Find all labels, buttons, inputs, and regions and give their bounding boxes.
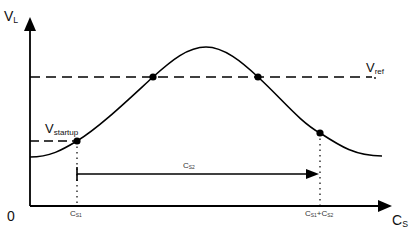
cs1cs2-b-sub: S2: [327, 213, 333, 218]
x-axis-label: CS: [392, 213, 408, 229]
vstartup-label-sub: startup: [54, 128, 79, 137]
origin-label: 0: [7, 209, 15, 223]
vstartup-label-main: V: [45, 121, 54, 136]
cs2-span-label: CS2: [183, 162, 195, 171]
vref-left-crossing-point: [149, 73, 156, 80]
y-axis-arrow-icon: [24, 17, 36, 31]
diagram-canvas: [0, 0, 417, 234]
vl-curve: [30, 47, 382, 157]
vstartup-label: Vstartup: [45, 122, 78, 137]
y-axis-label-sub: L: [13, 15, 18, 25]
cs2-span-label-sub: S2: [189, 165, 195, 170]
cs1-cs2-point: [316, 129, 323, 136]
x-axis-label-sub: S: [402, 219, 408, 229]
cs2-span-arrow-icon: [306, 169, 319, 179]
vref-end-dot: [374, 77, 376, 79]
cs1-label: CS1: [70, 210, 82, 219]
startup-point: [73, 137, 80, 144]
vref-label-main: V: [366, 60, 375, 75]
y-axis-label: VL: [4, 9, 18, 25]
x-axis-arrow-icon: [378, 200, 392, 212]
vref-right-crossing-point: [254, 73, 261, 80]
vref-label: Vref: [366, 61, 384, 76]
cs1-plus-cs2-label: CS1+CS2: [305, 210, 333, 219]
vref-label-sub: ref: [375, 67, 384, 76]
cs1-label-sub: S1: [76, 213, 82, 218]
x-axis-label-main: C: [392, 212, 402, 228]
y-axis-label-main: V: [4, 8, 13, 24]
